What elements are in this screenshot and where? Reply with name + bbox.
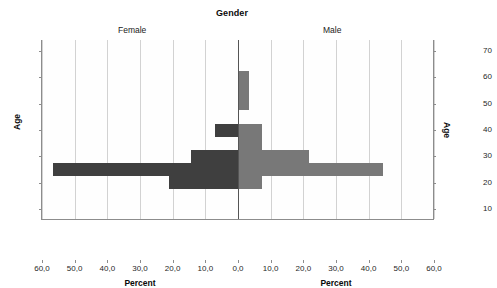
x-axis-tickmark xyxy=(238,260,239,263)
bar-male-age-30 xyxy=(239,150,309,163)
bar-male-age-25 xyxy=(239,163,383,176)
x-axis-tick-60-0: 60,0 xyxy=(419,264,449,273)
y-axis-tickmark-right-70 xyxy=(433,51,436,52)
y-axis-tickmark-right-30 xyxy=(433,156,436,157)
x-axis-tickmark xyxy=(336,260,337,263)
y-axis-tick-right-40: 40 xyxy=(483,125,497,134)
bar-male-age-60 xyxy=(239,71,249,84)
x-axis-tick-60-0: 60,0 xyxy=(27,264,57,273)
panel-label-male: Male xyxy=(323,25,341,35)
x-axis-tick-0-0: 0,0 xyxy=(223,264,253,273)
gridline xyxy=(42,40,43,219)
gridline xyxy=(205,40,206,219)
x-axis-tick-20-0: 20,0 xyxy=(158,264,188,273)
gridline xyxy=(303,40,304,219)
y-axis-tickmark-right-50 xyxy=(433,104,436,105)
gridline xyxy=(140,40,141,219)
x-axis-tickmark xyxy=(401,260,402,263)
y-axis-tickmark-left-60 xyxy=(39,77,42,78)
x-axis-tickmark xyxy=(434,260,435,263)
bar-male-age-20 xyxy=(239,176,262,189)
gridline xyxy=(401,40,402,219)
x-axis-tick-50-0: 50,0 xyxy=(386,264,416,273)
x-axis-tickmark xyxy=(303,260,304,263)
y-axis-tickmark-right-60 xyxy=(433,77,436,78)
y-axis-tickmark-right-20 xyxy=(433,183,436,184)
x-axis-tickmark xyxy=(173,260,174,263)
y-axis-tick-right-30: 30 xyxy=(483,151,497,160)
x-axis-tick-10-0: 10,0 xyxy=(256,264,286,273)
gridline xyxy=(173,40,174,219)
x-axis-tickmark xyxy=(205,260,206,263)
y-axis-tick-right-20: 20 xyxy=(483,178,497,187)
x-axis-tick-30-0: 30,0 xyxy=(321,264,351,273)
x-axis-tickmark xyxy=(369,260,370,263)
x-axis-tick-30-0: 30,0 xyxy=(125,264,155,273)
bar-female-age-40 xyxy=(215,124,238,137)
plot-area: 7070606050504040303020201010 60,050,040,… xyxy=(41,40,434,220)
x-axis-tickmark xyxy=(75,260,76,263)
x-axis-title-left: Percent xyxy=(100,278,180,288)
y-axis-tick-right-60: 60 xyxy=(483,72,497,81)
y-axis-title-left: Age xyxy=(12,114,22,130)
x-axis-tickmark xyxy=(140,260,141,263)
x-axis-tick-40-0: 40,0 xyxy=(354,264,384,273)
x-axis-tickmark xyxy=(107,260,108,263)
bar-male-age-50 xyxy=(239,97,249,110)
chart-title: Gender xyxy=(0,8,464,18)
x-axis-tick-40-0: 40,0 xyxy=(92,264,122,273)
y-axis-tickmark-left-50 xyxy=(39,104,42,105)
y-axis-tickmark-left-30 xyxy=(39,156,42,157)
panel-label-female: Female xyxy=(118,25,146,35)
bar-male-age-55 xyxy=(239,84,249,97)
y-axis-tickmark-right-40 xyxy=(433,130,436,131)
x-axis-tickmark xyxy=(271,260,272,263)
x-axis-title-right: Percent xyxy=(296,278,376,288)
y-axis-title-right: Age xyxy=(442,122,452,138)
x-axis-tick-50-0: 50,0 xyxy=(60,264,90,273)
x-axis-tick-20-0: 20,0 xyxy=(288,264,318,273)
gridline xyxy=(271,40,272,219)
bar-female-age-25 xyxy=(53,163,238,176)
y-axis-tickmark-left-70 xyxy=(39,51,42,52)
bar-female-age-20 xyxy=(169,176,238,189)
y-axis-tickmark-left-10 xyxy=(39,209,42,210)
bar-male-age-40 xyxy=(239,124,262,137)
x-axis-tickmark xyxy=(42,260,43,263)
gridline xyxy=(75,40,76,219)
y-axis-tickmark-left-40 xyxy=(39,130,42,131)
y-axis-tickmark-right-10 xyxy=(433,209,436,210)
gridline xyxy=(336,40,337,219)
gridline xyxy=(369,40,370,219)
gridline xyxy=(107,40,108,219)
bar-female-age-30 xyxy=(191,150,238,163)
y-axis-tick-right-10: 10 xyxy=(483,204,497,213)
y-axis-tickmark-left-20 xyxy=(39,183,42,184)
y-axis-tick-right-70: 70 xyxy=(483,46,497,55)
bar-male-age-35 xyxy=(239,137,262,150)
y-axis-tick-right-50: 50 xyxy=(483,99,497,108)
x-axis-tick-10-0: 10,0 xyxy=(190,264,220,273)
